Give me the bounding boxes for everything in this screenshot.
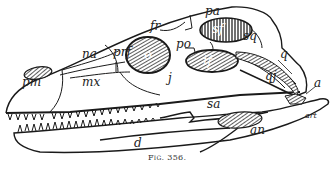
label-na: na	[82, 48, 97, 60]
label-po: po	[176, 38, 191, 50]
label-j: j	[168, 72, 172, 84]
label-sq: sq	[243, 30, 257, 42]
label-pa: pa	[205, 5, 220, 17]
label-art: art	[305, 112, 317, 120]
label-an: an	[250, 124, 265, 136]
label-sf: sf	[212, 22, 223, 35]
label-sa: sa	[207, 98, 220, 110]
label-d: d	[134, 137, 142, 149]
label-pm: pm	[22, 76, 41, 88]
lower-teeth	[18, 118, 155, 132]
label-a: a	[314, 77, 321, 89]
label-if: if	[203, 54, 212, 67]
infratemporal-fenestra	[186, 50, 238, 72]
label-prf: prf	[113, 46, 131, 58]
figure-caption: Fig. 356.	[148, 153, 186, 162]
label-fr: fr	[150, 20, 160, 32]
skull-diagram	[0, 0, 333, 171]
label-o: o	[144, 48, 152, 61]
label-qj: qj	[265, 70, 276, 82]
label-q: q	[280, 48, 288, 60]
label-mx: mx	[82, 76, 100, 88]
articulation	[285, 94, 306, 104]
